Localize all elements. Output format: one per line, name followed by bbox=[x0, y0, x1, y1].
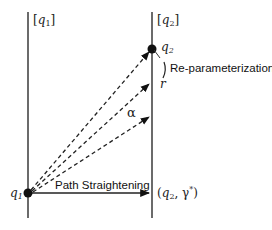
q2-label: q2 bbox=[161, 40, 174, 55]
q2-leader-line bbox=[154, 50, 160, 58]
dashed-arrow-to-r bbox=[32, 84, 149, 191]
target-label: (q2, γ*) bbox=[157, 185, 198, 201]
r-label: r bbox=[160, 77, 167, 91]
path-straightening-label: Path Straightening bbox=[55, 179, 150, 191]
q1-label: q1 bbox=[10, 186, 23, 201]
dashed-arrow-to-q2 bbox=[31, 52, 149, 190]
diagram-canvas: [q1] [q2] q2 r q1 (q2, γ*) Re-parameteri… bbox=[0, 0, 272, 230]
left-axis-label: [q1] bbox=[33, 13, 55, 28]
right-axis-label: [q2] bbox=[157, 13, 179, 28]
q1-point bbox=[24, 189, 33, 198]
reparameterization-label: Re-parameterization bbox=[170, 62, 272, 74]
alpha-label: α bbox=[127, 105, 136, 120]
reparam-brace bbox=[163, 62, 165, 78]
